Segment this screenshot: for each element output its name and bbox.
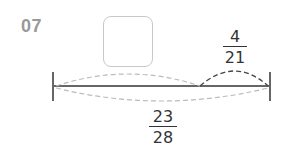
denominator: 21 xyxy=(223,49,247,66)
number-line-diagram xyxy=(0,0,287,156)
numerator: 4 xyxy=(223,28,247,45)
total-fraction: 23 28 xyxy=(149,108,177,146)
fraction-bar xyxy=(223,46,247,47)
fraction-bar xyxy=(149,126,177,127)
denominator: 28 xyxy=(149,129,177,146)
arc-known xyxy=(200,71,268,86)
numerator: 23 xyxy=(149,108,177,125)
arc-total xyxy=(56,88,268,101)
arc-unknown xyxy=(56,74,200,86)
segment-fraction: 4 21 xyxy=(223,28,247,66)
